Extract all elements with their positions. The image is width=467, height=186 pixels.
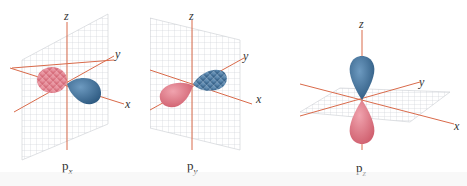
z-axis-label: z	[63, 9, 69, 23]
y-axis-label: y	[418, 75, 425, 89]
x-axis-label: x	[124, 97, 131, 111]
y-axis-label: y	[114, 47, 121, 61]
pz-orbital-diagram: z y x	[300, 0, 467, 186]
z-axis-label: z	[358, 17, 364, 31]
x-axis-label: x	[255, 92, 262, 106]
panel-px: z y x px	[0, 0, 160, 186]
panel-py: z y x py	[150, 0, 310, 186]
py-orbital-diagram: z y x	[150, 0, 310, 186]
px-orbital-diagram: z y x	[0, 0, 160, 186]
x-axis-label: x	[453, 119, 460, 133]
negative-lobe	[37, 67, 67, 93]
z-axis-label: z	[188, 9, 194, 23]
footer-strip	[0, 172, 467, 186]
y-axis-label: y	[242, 49, 249, 63]
panel-pz: z y x pz	[300, 0, 467, 186]
